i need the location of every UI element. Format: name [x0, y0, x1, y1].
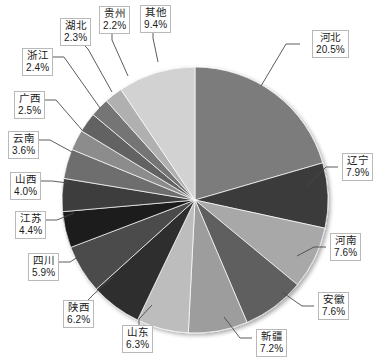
pie-slices-group [62, 67, 328, 333]
data-label-percent: 3.6% [12, 145, 35, 156]
data-label-category: 辽宁 [346, 155, 369, 167]
label-leader-line [52, 57, 100, 108]
data-label-henan[interactable]: 河南7.6% [330, 233, 361, 261]
data-label-category: 江苏 [19, 213, 42, 225]
data-label-category: 广西 [18, 93, 41, 105]
data-label-category: 新疆 [260, 331, 283, 343]
data-label-percent: 4.4% [19, 225, 42, 236]
data-label-category: 四川 [32, 255, 55, 267]
data-label-shaanxi[interactable]: 陕西6.2% [63, 300, 94, 328]
data-label-yunnan[interactable]: 云南3.6% [8, 131, 39, 159]
data-label-percent: 6.2% [67, 314, 90, 325]
data-label-percent: 7.2% [260, 343, 283, 354]
data-label-hubei[interactable]: 湖北2.3% [60, 18, 91, 46]
data-label-category: 云南 [12, 133, 35, 145]
data-label-shandong[interactable]: 山东6.3% [122, 325, 153, 353]
data-label-percent: 5.9% [32, 267, 55, 278]
label-leader-line [261, 44, 300, 86]
data-label-percent: 20.5% [316, 44, 345, 55]
data-label-sichuan[interactable]: 四川5.9% [28, 253, 59, 281]
data-label-percent: 4.0% [14, 186, 37, 197]
data-label-category: 湖北 [64, 20, 87, 32]
data-label-liaoning[interactable]: 辽宁7.9% [342, 153, 373, 181]
data-label-category: 山东 [126, 327, 149, 339]
data-label-anhui[interactable]: 安徽7.6% [318, 292, 349, 320]
pie-chart-figure: 河北20.5%辽宁7.9%河南7.6%安徽7.6%新疆7.2%山东6.3%陕西6… [0, 0, 391, 364]
data-label-category: 陕西 [67, 302, 90, 314]
data-label-jiangsu[interactable]: 江苏4.4% [15, 211, 46, 239]
data-label-qita[interactable]: 其他9.4% [140, 5, 171, 33]
label-leader-line [44, 100, 82, 130]
data-label-category: 浙江 [26, 50, 49, 62]
data-label-percent: 2.5% [18, 105, 41, 116]
data-label-shanxi[interactable]: 山西4.0% [10, 172, 41, 200]
data-label-category: 安徽 [322, 294, 345, 306]
label-leader-line [82, 43, 112, 92]
data-label-category: 贵州 [103, 8, 126, 20]
data-label-percent: 9.4% [144, 19, 167, 30]
data-label-percent: 7.6% [334, 247, 357, 258]
data-label-percent: 7.9% [346, 167, 369, 178]
label-leader-line [112, 33, 128, 76]
data-label-category: 山西 [14, 174, 37, 186]
label-leader-line [38, 140, 72, 152]
data-label-hebei[interactable]: 河北20.5% [312, 30, 349, 58]
data-label-percent: 6.3% [126, 339, 149, 350]
data-label-category: 河南 [334, 235, 357, 247]
data-label-percent: 2.2% [103, 20, 126, 31]
data-label-category: 其他 [144, 7, 167, 19]
data-label-percent: 2.4% [26, 62, 49, 73]
data-label-zhejiang[interactable]: 浙江2.4% [22, 48, 53, 76]
label-leader-line [153, 32, 158, 62]
data-label-guangxi[interactable]: 广西2.5% [14, 91, 45, 119]
data-label-category: 河北 [316, 32, 345, 44]
data-label-xinjiang[interactable]: 新疆7.2% [256, 329, 287, 357]
data-label-percent: 2.3% [64, 32, 87, 43]
data-label-guizhou[interactable]: 贵州2.2% [99, 6, 130, 34]
data-label-percent: 7.6% [322, 306, 345, 317]
